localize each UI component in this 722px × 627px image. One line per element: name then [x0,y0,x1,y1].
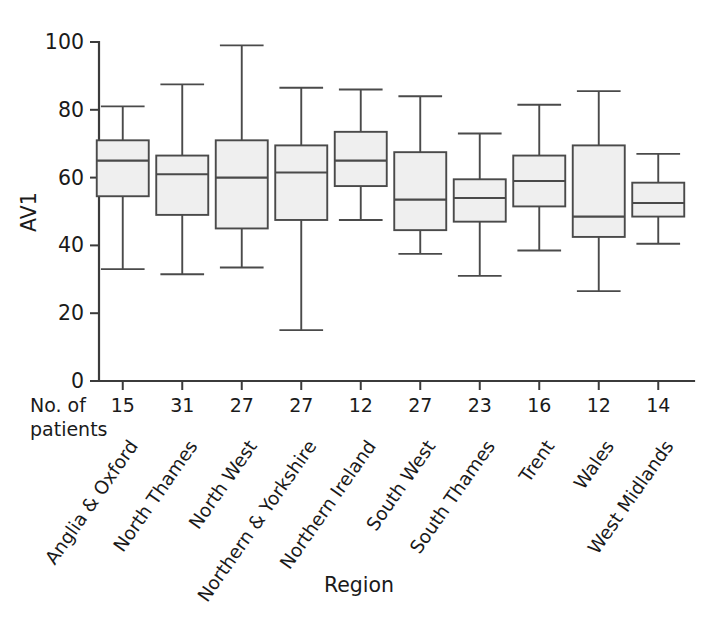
box-plot-4 [275,88,327,330]
iqr-box [97,140,149,196]
patient-counts-group: 15312727122723161214 [111,394,671,416]
box-plot-9 [573,91,625,291]
count-row-title-line2: patients [30,418,108,440]
patient-count-label: 15 [111,394,135,416]
box-plot-5 [335,89,387,220]
y-tick-label: 100 [45,30,84,54]
boxplot-figure: 020406080100 AV1 No. of patients 1531272… [0,0,722,627]
box-plot-2 [156,84,208,274]
box-plot-3 [216,45,268,267]
patient-count-label: 14 [646,394,670,416]
iqr-box [632,183,684,217]
iqr-box [335,132,387,186]
y-axis-title: AV1 [17,192,41,232]
patient-count-label: 27 [408,394,432,416]
iqr-box [216,140,268,228]
patient-count-label: 12 [587,394,611,416]
y-axis-ticks: 020406080100 [45,30,99,393]
region-label: Northern & Yorkshire [193,436,320,605]
patient-count-label: 16 [527,394,551,416]
iqr-box [394,152,446,230]
box-plot-7 [454,134,506,276]
iqr-box [156,156,208,215]
iqr-box [275,145,327,220]
box-plot-10 [632,154,684,244]
y-tick-label: 0 [71,369,84,393]
patient-count-label: 12 [349,394,373,416]
y-tick-label: 20 [58,301,84,325]
y-tick-label: 60 [58,166,84,190]
count-row-title-line1: No. of [30,394,87,416]
region-label: Trent [514,436,558,487]
y-tick-label: 80 [58,98,84,122]
x-axis-title: Region [324,573,394,597]
box-plot-6 [394,96,446,254]
box-plot-8 [513,105,565,251]
iqr-box [573,145,625,237]
region-label: Wales [570,436,619,493]
iqr-box [454,179,506,221]
box-plot-1 [97,106,149,269]
box-plots-group [97,45,685,330]
patient-count-label: 27 [230,394,254,416]
patient-count-label: 27 [289,394,313,416]
patient-count-label: 31 [170,394,194,416]
x-axis-ticks [123,381,659,390]
patient-count-label: 23 [468,394,492,416]
boxplot-svg: 020406080100 AV1 No. of patients 1531272… [0,0,722,627]
y-tick-label: 40 [58,233,84,257]
